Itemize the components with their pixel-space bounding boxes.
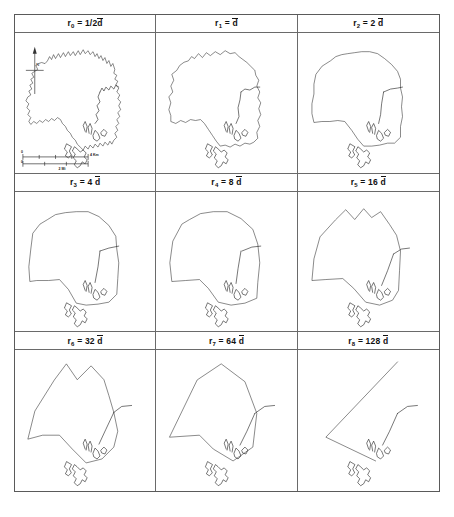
bay-outline-r5 [347,303,354,317]
coastline-r3 [29,211,119,304]
bay-outline-r7 [206,462,213,476]
bay-outline-r6 [64,462,71,476]
river-network-r4 [236,246,261,283]
panel-body-r2 [298,33,439,173]
panel-grid: r0 = 1/2d N [15,15,439,491]
estuary-inlets-r0 [83,122,107,142]
coastline-r1 [169,51,261,147]
coastline-r6 [28,364,118,463]
figure-panel-grid: r0 = 1/2d N [14,14,440,492]
map-r1 [156,33,296,173]
harbor-channel-r1 [214,147,229,168]
bay-outline-r4 [206,303,213,317]
panel-label-r5: r5 = 16 d [351,178,386,187]
panel-r4: r4 = 8 d [156,174,297,333]
harbor-channel-r2 [355,147,370,168]
river-network-r7 [240,406,275,446]
panel-label-r2: r2 = 2 d [353,19,383,28]
coastline-r2 [312,52,403,146]
panel-r6: r6 = 32 d [15,332,156,491]
harbor-channel-r8 [355,465,370,486]
panel-body-r4 [156,192,296,332]
panel-body-r1 [156,33,296,173]
panel-body-r0: N 0 4 Km [15,33,155,173]
panel-header-r4: r4 = 8 d [156,174,296,192]
map-r5 [298,192,439,332]
coastline-r5 [312,208,401,304]
panel-label-r3: r3 = 4 d [70,178,100,187]
panel-r5: r5 = 16 d [298,174,439,333]
coastline-r8 [326,362,398,461]
panel-r7: r7 = 64 d [156,332,297,491]
panel-header-r2: r2 = 2 d [298,15,439,33]
map-r7 [156,350,296,491]
map-r6 [15,350,155,491]
river-network-r5 [381,248,409,285]
river-network-r0 [95,85,119,123]
panel-header-r7: r7 = 64 d [156,332,296,350]
estuary-inlets-r8 [366,439,390,459]
estuary-inlets-r7 [225,439,249,459]
panel-header-r1: r1 = d [156,15,296,33]
harbor-channel-r4 [214,306,229,327]
river-network-r8 [382,406,417,446]
estuary-inlets-r5 [366,280,390,300]
panel-body-r8 [298,350,439,491]
scale-km-zero: 0 [21,150,23,154]
panel-header-r6: r6 = 32 d [15,332,155,350]
coastline-r4 [170,211,260,304]
river-network-r1 [236,87,260,123]
river-network-r3 [95,246,119,282]
bay-outline-r0 [64,144,71,158]
bay-outline-r1 [206,144,213,158]
panel-label-r1: r1 = d [215,19,238,28]
panel-r3: r3 = 4 d [15,174,156,333]
panel-body-r3 [15,192,155,332]
coastline-r7 [170,364,257,461]
map-r8 [298,350,439,491]
map-r0: N 0 4 Km [15,33,155,173]
bay-outline-r8 [347,462,354,476]
bay-outline-r3 [64,303,71,317]
panel-label-r7: r7 = 64 d [209,337,244,346]
panel-r2: r2 = 2 d [298,15,439,174]
panel-label-r4: r4 = 8 d [211,178,241,187]
north-arrow-label: N [36,62,39,67]
estuary-inlets-r3 [83,280,107,300]
scale-mi-zero: 0 [21,160,23,164]
bay-outline-r2 [347,144,354,158]
panel-header-r5: r5 = 16 d [298,174,439,192]
panel-body-r5 [298,192,439,332]
map-r4 [156,192,296,332]
scale-mi-label: 2 Mi [58,167,65,171]
estuary-inlets-r2 [366,122,390,142]
map-r3 [15,192,155,332]
panel-header-r3: r3 = 4 d [15,174,155,192]
panel-label-r6: r6 = 32 d [68,337,103,346]
panel-label-r8: r8 = 128 d [348,337,388,346]
map-r2 [298,33,439,173]
coastline-detailed-r0 [26,50,121,150]
panel-r0: r0 = 1/2d N [15,15,156,174]
river-network-r6 [99,406,132,445]
harbor-channel-r3 [72,306,87,327]
harbor-channel-r0 [72,147,87,168]
panel-label-r0: r0 = 1/2d [68,19,103,28]
panel-body-r6 [15,350,155,491]
estuary-inlets-r1 [225,122,249,142]
river-network-r2 [378,87,402,123]
north-arrow: N [26,47,44,94]
panel-r8: r8 = 128 d [298,332,439,491]
panel-r1: r1 = d [156,15,297,174]
harbor-channel-r6 [72,465,87,486]
panel-body-r7 [156,350,296,491]
estuary-inlets-r6 [83,439,107,459]
harbor-channel-r5 [355,306,370,327]
harbor-channel-r7 [214,465,229,486]
panel-header-r0: r0 = 1/2d [15,15,155,33]
panel-header-r8: r8 = 128 d [298,332,439,350]
scale-km-label: 4 Km [90,153,99,157]
